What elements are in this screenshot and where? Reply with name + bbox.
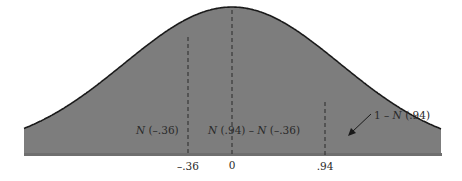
right-arg: (.94) xyxy=(402,109,430,121)
tick-label-zero: 0 xyxy=(229,159,236,171)
middle-arg1: (.94) – xyxy=(217,124,257,136)
left-region-label: N (–.36) xyxy=(135,124,179,136)
normal-distribution-chart: N (–.36) N (.94) – N (–.36) 1 – N (.94) … xyxy=(0,0,462,181)
plot-area: N (–.36) N (.94) – N (–.36) 1 – N (.94) … xyxy=(24,7,442,172)
middle-region-label: N (.94) – N (–.36) xyxy=(207,124,300,136)
right-region-label: 1 – N (.94) xyxy=(374,109,430,121)
baseline xyxy=(24,153,442,156)
right-prefix: 1 – xyxy=(374,109,393,121)
tick-label-094: .94 xyxy=(317,160,334,172)
middle-arg2: (–.36) xyxy=(267,124,300,136)
tick-label-neg036: –.36 xyxy=(177,160,199,172)
left-region-arg: (–.36) xyxy=(145,124,178,136)
